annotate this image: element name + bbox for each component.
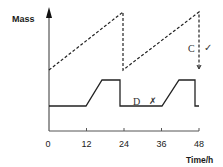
x-tick-24: 24 — [119, 139, 129, 149]
check-icon: ✓ — [204, 42, 212, 53]
x-tick-36: 36 — [156, 139, 166, 149]
x-tick-12: 12 — [81, 139, 91, 149]
y-axis-arrow-icon — [46, 7, 52, 18]
curve-c-label: C — [188, 43, 195, 54]
y-axis-label: Mass — [12, 14, 35, 24]
mass-time-chart — [0, 0, 223, 167]
curve-d-label: D — [133, 96, 140, 107]
x-tick-48: 48 — [194, 139, 204, 149]
curve-c-dashed — [49, 12, 199, 70]
x-axis-label: Time/h — [186, 155, 213, 165]
x-tick-0: 0 — [45, 139, 50, 149]
cross-icon: ✗ — [149, 96, 157, 106]
curve-d-solid — [49, 80, 199, 106]
